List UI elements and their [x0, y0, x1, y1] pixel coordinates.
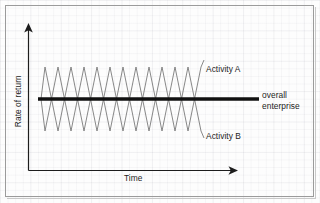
y-axis — [24, 23, 33, 171]
label-overall-line2: enterprise — [262, 101, 300, 111]
y-axis-label: Rate of return — [13, 65, 23, 137]
figure-container: Activity A Activity B overall enterprise… — [0, 0, 320, 203]
x-axis-label: Time — [124, 173, 143, 183]
label-activity-a: Activity A — [206, 64, 240, 74]
label-overall-line1: overall — [262, 90, 287, 100]
label-overall-enterprise: overall enterprise — [262, 90, 318, 111]
series-activity-a — [41, 60, 204, 131]
label-activity-b: Activity B — [206, 131, 241, 141]
series-activity-b — [41, 67, 204, 138]
